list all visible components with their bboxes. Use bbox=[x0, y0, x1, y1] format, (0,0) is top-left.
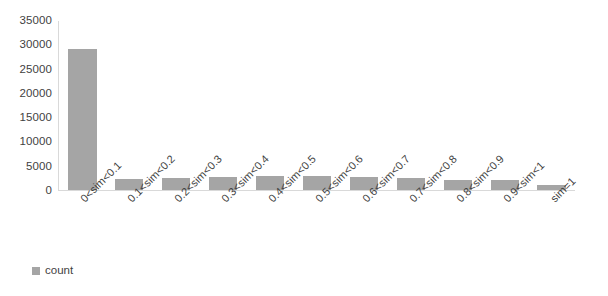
x-axis-slot: 0.6<sim<0.7 bbox=[340, 192, 387, 254]
x-axis-slot: 0.8<sim<0.9 bbox=[434, 192, 481, 254]
x-axis-slot: 0.3<sim<0.4 bbox=[199, 192, 246, 254]
y-axis-tick-label: 15000 bbox=[20, 112, 52, 124]
y-axis-tick-label: 10000 bbox=[20, 137, 52, 149]
y-axis-tick-label: 30000 bbox=[20, 40, 52, 52]
legend-label-count: count bbox=[45, 265, 73, 277]
bar-slot bbox=[59, 21, 106, 190]
bar-chart: 05000100001500020000250003000035000 0<si… bbox=[0, 0, 608, 296]
x-axis-slot: 0.4<sim<0.5 bbox=[246, 192, 293, 254]
chart-legend: count bbox=[32, 265, 73, 277]
y-axis-tick-label: 5000 bbox=[26, 161, 52, 173]
y-axis-tick-label: 35000 bbox=[20, 15, 52, 27]
x-axis-slot: sim=1 bbox=[528, 192, 575, 254]
x-axis-slot: 0.7<sim<0.8 bbox=[387, 192, 434, 254]
x-axis-slot: 0.1<sim<0.2 bbox=[105, 192, 152, 254]
y-axis-tick-label: 20000 bbox=[20, 88, 52, 100]
x-axis-slot: 0<sim<0.1 bbox=[58, 192, 105, 254]
x-axis-slot: 0.9<sim<1 bbox=[481, 192, 528, 254]
x-axis-slot: 0.5<sim<0.6 bbox=[293, 192, 340, 254]
y-axis: 05000100001500020000250003000035000 bbox=[0, 0, 56, 210]
y-axis-tick-label: 0 bbox=[46, 185, 53, 197]
x-axis-slot: 0.2<sim<0.3 bbox=[152, 192, 199, 254]
bar bbox=[68, 49, 96, 190]
y-axis-tick-label: 25000 bbox=[20, 64, 52, 76]
x-axis: 0<sim<0.10.1<sim<0.20.2<sim<0.30.3<sim<0… bbox=[58, 192, 575, 254]
legend-swatch-count bbox=[32, 267, 40, 275]
